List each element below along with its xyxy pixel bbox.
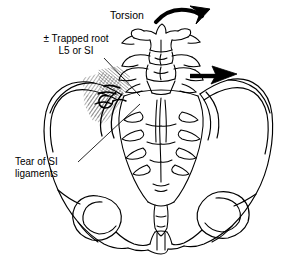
torsion-arrow-icon <box>156 6 210 24</box>
pubic-symphysis <box>148 231 172 254</box>
label-torsion: Torsion <box>110 9 144 21</box>
label-trapped-root-line2: L5 or SI <box>58 45 93 56</box>
label-trapped-root: ± Trapped rootL5 or SI <box>24 33 128 57</box>
anatomical-figure: Torsion ± Trapped rootL5 or SI Tear of S… <box>0 0 283 266</box>
lumbar-vertebrae <box>119 24 203 95</box>
label-trapped-root-line1: ± Trapped root <box>44 33 109 44</box>
right-ilium <box>168 79 273 249</box>
label-tear-line2: ligaments <box>15 168 58 179</box>
label-tear-si-ligaments: Tear of SIligaments <box>15 156 58 180</box>
label-tear-line1: Tear of SI <box>15 156 58 167</box>
